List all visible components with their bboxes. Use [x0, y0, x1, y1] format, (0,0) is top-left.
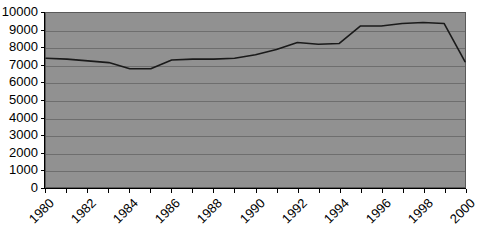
x-axis-tick-label: 1980 — [22, 196, 57, 231]
y-axis-tick-label: 9000 — [9, 23, 38, 36]
x-axis-tick-mark — [213, 189, 214, 193]
series-line-group — [46, 13, 465, 187]
x-axis-tick-mark — [319, 189, 320, 193]
y-axis-tick-label: 2000 — [9, 146, 38, 159]
x-axis-tick-mark — [403, 189, 404, 193]
x-axis-tick-mark — [466, 189, 467, 193]
x-axis-tick-mark — [256, 189, 257, 193]
x-axis-tick-label: 1998 — [400, 196, 435, 231]
x-axis-tick-label: 1996 — [358, 196, 393, 231]
x-axis-tick-label: 1990 — [232, 196, 267, 231]
x-axis-tick-mark — [192, 189, 193, 193]
y-axis-tick-label: 1000 — [9, 163, 38, 176]
y-axis-tick-label: 5000 — [9, 93, 38, 106]
x-axis-tick-mark — [45, 189, 46, 193]
line-chart: 1000090008000700060005000400030002000100… — [0, 0, 478, 241]
y-axis-tick-label: 8000 — [9, 40, 38, 53]
x-axis-tick-mark — [340, 189, 341, 193]
x-axis-tick-label: 1992 — [274, 196, 309, 231]
x-axis-tick-mark — [298, 189, 299, 193]
x-axis-tick-label: 1982 — [64, 196, 99, 231]
y-axis-tick-label: 4000 — [9, 111, 38, 124]
x-axis-tick-mark — [445, 189, 446, 193]
y-axis-tick-label: 0 — [31, 181, 38, 194]
x-axis-tick-mark — [66, 189, 67, 193]
y-axis: 1000090008000700060005000400030002000100… — [0, 0, 45, 200]
x-axis-tick-label: 1988 — [190, 196, 225, 231]
y-axis-tick-label: 6000 — [9, 75, 38, 88]
x-axis-tick-label: 2000 — [443, 196, 478, 231]
y-axis-tick-label: 7000 — [9, 58, 38, 71]
x-axis-tick-label: 1994 — [316, 196, 351, 231]
series-line-1 — [46, 23, 465, 69]
x-axis-tick-mark — [277, 189, 278, 193]
x-axis-tick-label: 1986 — [148, 196, 183, 231]
x-axis-tick-mark — [171, 189, 172, 193]
x-axis-tick-mark — [361, 189, 362, 193]
x-axis-tick-mark — [424, 189, 425, 193]
y-axis-tick-label: 10000 — [2, 5, 38, 18]
x-axis-tick-mark — [129, 189, 130, 193]
plot-area — [45, 12, 466, 188]
x-axis-tick-mark — [108, 189, 109, 193]
x-axis-tick-mark — [150, 189, 151, 193]
x-axis-tick-mark — [234, 189, 235, 193]
x-axis-tick-mark — [87, 189, 88, 193]
x-axis-tick-label: 1984 — [106, 196, 141, 231]
x-axis-tick-mark — [382, 189, 383, 193]
y-axis-tick-label: 3000 — [9, 128, 38, 141]
